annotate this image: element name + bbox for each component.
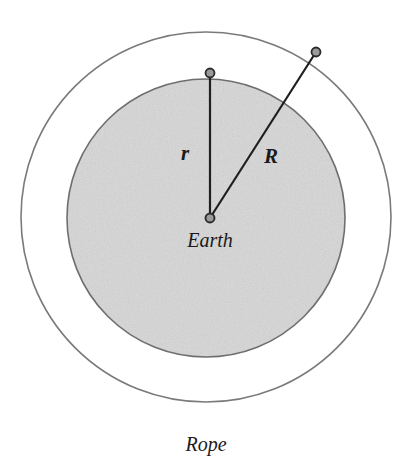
outer-radius-endpoint-marker (312, 48, 321, 57)
rope-label: Rope (184, 433, 226, 456)
outer-radius-label: R (263, 144, 278, 168)
diagram-canvas: r R Earth Rope (0, 0, 414, 472)
earth-rope-diagram: r R Earth Rope (0, 0, 414, 472)
inner-radius-label: r (181, 141, 190, 165)
earth-label: Earth (186, 229, 233, 251)
inner-radius-endpoint-marker (206, 69, 215, 78)
earth-center-marker (206, 214, 215, 223)
